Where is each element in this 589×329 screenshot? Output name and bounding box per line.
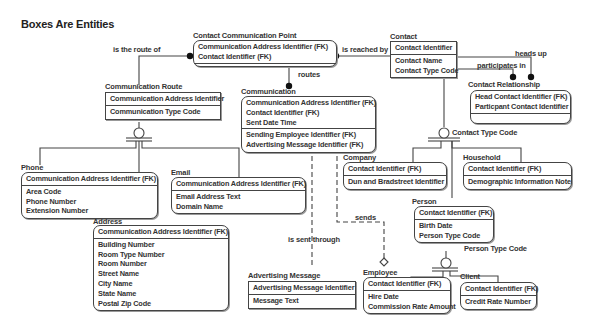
entity-name: Advertising Message — [248, 271, 320, 280]
entity-contact-relationship[interactable]: Head Contact Identifier (FK) Particpant … — [470, 90, 571, 124]
discriminator-circle — [134, 128, 144, 138]
attribute: Postal Zip Code — [98, 299, 224, 309]
entity-name: Contact Communication Point — [193, 31, 296, 40]
entity-name: Client — [460, 272, 480, 281]
entity-household[interactable]: Contact Identifier (FK) Demographic Info… — [463, 162, 572, 190]
key-attribute: Contact Identifier (FK) — [465, 284, 532, 294]
attribute: Demographic Information Note — [468, 177, 567, 187]
attribute: Advertising Message Identifier (FK) — [246, 140, 371, 150]
key-attribute: Contact Identifier (FK) — [419, 208, 489, 218]
entity-name: Company — [343, 153, 376, 162]
rel-is-the-route-of: is the route of — [113, 45, 160, 54]
entity-advertising-message[interactable]: Advertising Message Identifier Message T… — [248, 281, 356, 309]
entity-employee[interactable]: Contact Identifier (FK) Hire Date Commis… — [363, 277, 451, 314]
key-attribute: Sent Date Time — [246, 118, 371, 128]
attribute: Building Number — [98, 240, 224, 250]
key-attribute: Communication Address Identifier (FK) — [26, 174, 153, 184]
attribute: Contact Type Code — [395, 66, 452, 76]
entity-name: Person — [412, 197, 437, 206]
discriminator-circle-person — [441, 258, 451, 268]
key-attribute: Contact Identifier (FK) — [246, 108, 371, 118]
line-participates-in — [458, 69, 513, 76]
attribute: Domain Name — [176, 202, 301, 212]
key-attribute: Head Contact Identifier (FK) — [475, 92, 566, 102]
attribute: Area Code — [26, 187, 153, 197]
entity-address[interactable]: Communication Address Identifier (FK) Bu… — [93, 225, 229, 311]
key-attribute: Communication Address Identifier (FK) — [98, 227, 224, 237]
entity-name: Household — [463, 153, 500, 162]
entity-name: Contact — [390, 32, 417, 41]
key-attribute: Contact Identifier (FK) — [348, 164, 442, 174]
key-attribute: Communication Address Identifier (FK) — [246, 98, 371, 108]
discriminator-contact-type-code: Contact Type Code — [452, 128, 517, 137]
rel-heads-up: heads up — [515, 49, 547, 58]
key-attribute: Contact Identifier (FK) — [368, 279, 446, 289]
key-attribute: Contact Identifier (FK) — [198, 52, 332, 62]
key-attribute: Contact Identifier (FK) — [468, 164, 567, 174]
entity-phone[interactable]: Communication Address Identifier (FK) Ar… — [21, 172, 158, 219]
attribute: Person Type Code — [419, 231, 489, 241]
attribute: Birth Date — [419, 221, 489, 231]
entity-person[interactable]: Contact Identifier (FK) Birth Date Perso… — [414, 206, 494, 243]
attribute: Street Name — [98, 269, 224, 279]
entity-contact-communication-point[interactable]: Communication Address Identifier (FK) Co… — [193, 40, 337, 67]
attribute: Message Text — [253, 296, 351, 306]
entity-communication-route[interactable]: Communication Address Identifier Communi… — [105, 92, 221, 120]
rel-is-sent-through: is sent through — [288, 235, 340, 244]
entity-name: Communication Route — [105, 82, 182, 91]
entity-name: Email — [171, 168, 190, 177]
entity-company[interactable]: Contact Identifier (FK) Dun and Bradstre… — [343, 162, 447, 190]
attribute: Credit Rate Number — [465, 297, 532, 307]
key-attribute: Advertising Message Identifier — [253, 283, 351, 293]
entity-communication[interactable]: Communication Address Identifier (FK) Co… — [241, 96, 376, 153]
key-attribute: Particpant Contact Identifier — [475, 102, 566, 112]
entity-contact[interactable]: Contact Identifier Contact Name Contact … — [390, 41, 457, 78]
rel-routes: routes — [298, 70, 320, 79]
attribute: Sending Employee Identifier (FK) — [246, 130, 371, 140]
entity-name: Contact Relationship — [468, 80, 540, 89]
discriminator-person-type-code: Person Type Code — [464, 244, 527, 253]
entity-client[interactable]: Contact Identifier (FK) Credit Rate Numb… — [460, 282, 537, 310]
attribute: Commission Rate Amount — [368, 302, 446, 312]
attribute: Phone Number — [26, 197, 153, 207]
key-attribute: Communication Address Identifier — [110, 94, 216, 104]
line-is-the-route-of — [139, 56, 190, 85]
key-attribute: Contact Identifier — [395, 43, 452, 53]
entity-email[interactable]: Communication Address Identifier (FK) Em… — [171, 177, 306, 214]
attribute: Extension Number — [26, 206, 153, 216]
entity-name: Employee — [363, 268, 397, 277]
attribute: Room Type Number — [98, 250, 224, 260]
attribute: Email Address Text — [176, 192, 301, 202]
entity-name: Phone — [21, 163, 43, 172]
key-attribute: Communication Address Identifier (FK) — [176, 179, 301, 189]
optional-diamond — [380, 258, 388, 266]
attribute: Communication Type Code — [110, 107, 216, 117]
rel-participates-in: participates in — [477, 61, 526, 70]
key-attribute: Communication Address Identifier (FK) — [198, 42, 332, 52]
discriminator-circle-contact — [439, 128, 449, 138]
entity-name: Communication — [241, 87, 296, 96]
attribute: State Name — [98, 289, 224, 299]
attribute: Hire Date — [368, 292, 446, 302]
rel-sends: sends — [355, 213, 376, 222]
attribute: Room Number — [98, 259, 224, 269]
attribute: Contact Name — [395, 56, 452, 66]
rel-is-reached-by: is reached by — [342, 45, 388, 54]
attribute: Dun and Bradstreet Identifier — [348, 177, 442, 187]
attribute: City Name — [98, 279, 224, 289]
